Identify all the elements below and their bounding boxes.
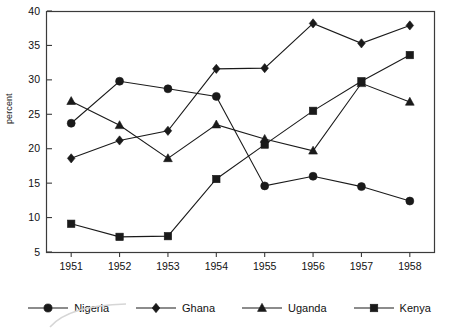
x-tick-label: 1955: [242, 261, 288, 272]
marker-diamond: [358, 39, 366, 48]
legend-label: Uganda: [288, 302, 327, 314]
marker-circle: [309, 172, 317, 180]
marker-diamond: [116, 136, 124, 145]
marker-square: [358, 78, 365, 85]
marker-triangle: [67, 97, 76, 105]
x-tick-label: 1957: [338, 261, 384, 272]
x-tick-label: 1958: [387, 261, 433, 272]
legend-label: Nigeria: [74, 302, 109, 314]
legend-item-nigeria[interactable]: Nigeria: [27, 301, 109, 315]
marker-square: [309, 107, 316, 114]
legend-key-circle: [27, 301, 69, 315]
series-polyline: [71, 83, 410, 158]
marker-square: [213, 175, 220, 182]
marker-triangle: [212, 120, 221, 128]
marker-circle: [44, 304, 52, 312]
legend-item-kenya[interactable]: Kenya: [353, 301, 431, 315]
x-tick-label: 1953: [145, 261, 191, 272]
marker-square: [116, 233, 123, 240]
marker-square: [67, 220, 74, 227]
legend-item-uganda[interactable]: Uganda: [241, 301, 327, 315]
y-tick-label: 35: [18, 40, 40, 51]
marker-square: [406, 51, 413, 58]
legend-label: Kenya: [400, 302, 431, 314]
marker-diamond: [67, 154, 75, 163]
line-chart: percent 510152025303540 1951195219531954…: [0, 0, 458, 329]
x-tick-label: 1951: [48, 261, 94, 272]
marker-square: [370, 304, 378, 312]
legend-key-square: [353, 301, 395, 315]
marker-circle: [164, 85, 172, 93]
marker-circle: [212, 92, 220, 100]
y-tick-label: 25: [18, 109, 40, 120]
marker-diamond: [309, 19, 317, 28]
marker-circle: [406, 197, 414, 205]
legend-item-ghana[interactable]: Ghana: [135, 301, 215, 315]
marker-square: [261, 141, 268, 148]
marker-circle: [357, 183, 365, 191]
x-tick-label: 1952: [97, 261, 143, 272]
marker-square: [164, 232, 171, 239]
y-tick-label: 30: [18, 74, 40, 85]
series-uganda: [67, 79, 414, 162]
marker-diamond: [406, 21, 414, 30]
marker-circle: [116, 77, 124, 85]
marker-diamond: [261, 64, 269, 73]
legend-label: Ghana: [182, 302, 215, 314]
x-tick-label: 1954: [193, 261, 239, 272]
marker-triangle: [115, 121, 124, 129]
x-tick-label: 1956: [290, 261, 336, 272]
marker-triangle: [258, 303, 267, 311]
legend-key-diamond: [135, 301, 177, 315]
y-tick-label: 20: [18, 143, 40, 154]
chart-legend: NigeriaGhanaUgandaKenya: [0, 297, 458, 319]
marker-circle: [67, 119, 75, 127]
legend-key-triangle: [241, 301, 283, 315]
plot-canvas: [0, 0, 458, 329]
y-tick-label: 5: [18, 247, 40, 258]
y-tick-label: 15: [18, 178, 40, 189]
marker-circle: [261, 182, 269, 190]
series-layer: [67, 19, 414, 241]
y-tick-label: 40: [18, 6, 40, 17]
y-tick-marks: [47, 11, 52, 252]
marker-triangle: [164, 154, 173, 162]
marker-diamond: [152, 303, 160, 312]
y-tick-label: 10: [18, 212, 40, 223]
